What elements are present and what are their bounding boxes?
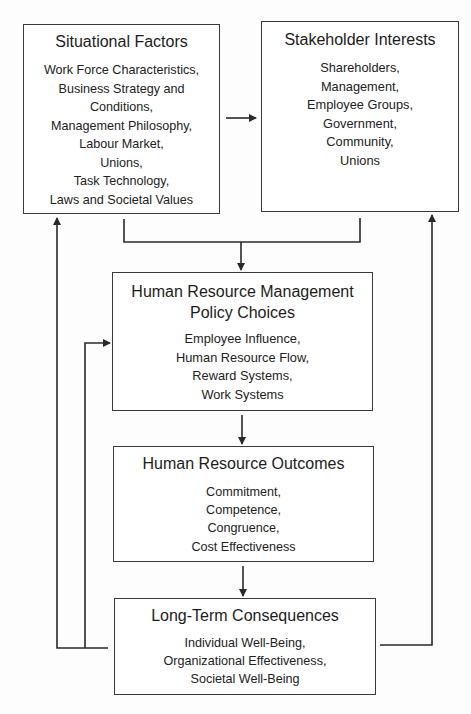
list-item: Societal Well-Being — [115, 670, 375, 688]
list-item: Shareholders, — [262, 59, 458, 78]
situational-factors-title: Situational Factors — [24, 32, 219, 52]
list-item: Employee Groups, — [262, 96, 458, 115]
list-item: Unions, — [24, 154, 219, 173]
hrm-policy-choices-title-line2: Policy Choices — [113, 302, 372, 323]
list-item: Work Systems — [113, 386, 372, 405]
list-item: Congruence, — [114, 519, 373, 537]
connector-merge-to-hrm — [124, 218, 360, 242]
long-term-consequences-list: Individual Well-Being, Organizational Ef… — [115, 634, 375, 689]
list-item: Organizational Effectiveness, — [115, 652, 375, 670]
hrm-policy-choices-title-line1: Human Resource Management — [113, 281, 372, 302]
list-item: Competence, — [114, 501, 373, 519]
list-item: Reward Systems, — [113, 367, 372, 386]
situational-factors-list: Work Force Characteristics, Business Str… — [24, 61, 219, 209]
list-item: Commitment, — [114, 483, 373, 501]
hr-outcomes-list: Commitment, Competence, Congruence, Cost… — [114, 483, 373, 556]
list-item: Management, — [262, 78, 458, 97]
list-item: Government, — [262, 115, 458, 134]
list-item: Unions — [262, 152, 458, 171]
feedback-arrow-to-stakeholder — [380, 215, 432, 645]
list-item: Labour Market, — [24, 135, 219, 154]
hr-outcomes-box: Human Resource Outcomes Commitment, Comp… — [113, 446, 374, 562]
list-item: Human Resource Flow, — [113, 349, 372, 368]
list-item: Task Technology, — [24, 172, 219, 191]
list-item: Cost Effectiveness — [114, 538, 373, 556]
list-item: Community, — [262, 133, 458, 152]
stakeholder-interests-box: Stakeholder Interests Shareholders, Mana… — [261, 21, 459, 212]
list-item: Employee Influence, — [113, 330, 372, 349]
list-item: Management Philosophy, — [24, 117, 219, 136]
list-item: Business Strategy and — [24, 80, 219, 99]
feedback-arrow-to-hrm — [85, 343, 110, 648]
hr-outcomes-title: Human Resource Outcomes — [114, 454, 373, 474]
list-item: Laws and Societal Values — [24, 191, 219, 210]
situational-factors-box: Situational Factors Work Force Character… — [23, 24, 220, 214]
feedback-arrow-to-situational — [57, 218, 108, 648]
list-item: Work Force Characteristics, — [24, 61, 219, 80]
list-item: Conditions, — [24, 98, 219, 117]
stakeholder-interests-title: Stakeholder Interests — [262, 30, 458, 50]
long-term-consequences-box: Long-Term Consequences Individual Well-B… — [114, 598, 376, 695]
hrm-policy-choices-list: Employee Influence, Human Resource Flow,… — [113, 330, 372, 404]
list-item: Individual Well-Being, — [115, 634, 375, 652]
stakeholder-interests-list: Shareholders, Management, Employee Group… — [262, 59, 458, 170]
long-term-consequences-title: Long-Term Consequences — [115, 606, 375, 626]
hrm-policy-choices-box: Human Resource Management Policy Choices… — [112, 272, 373, 411]
